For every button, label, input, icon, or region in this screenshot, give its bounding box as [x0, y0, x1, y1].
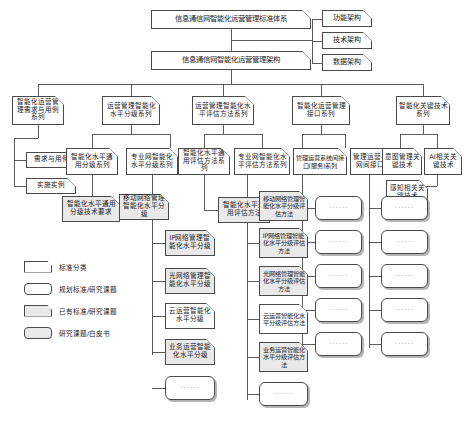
subhead-intent-management-tech: 意图管理关键技术 [382, 148, 422, 175]
legend-swatch-round-white [24, 283, 52, 295]
subhead-implementation-case-label: 实施实例 [37, 182, 65, 190]
leaf-professional-grading-more-label: ······ [180, 384, 199, 392]
category-key-technology: 智能化关键技术系列 [396, 96, 450, 125]
leaf-professional-interface-5: ······ [381, 332, 428, 356]
subhead-general-assessment-series-label: 智能化水平通用评估方法系列 [180, 150, 228, 173]
architecture-branch-technology-label: 技术架构 [333, 36, 361, 44]
leaf-cloud-operation-assessment-label: 云运营智能化水平分级评估方法 [261, 312, 306, 327]
leaf-system-interface-1-label: ······ [329, 204, 348, 212]
leaf-cloud-operation-grading-label: 云运营智能化水平分级 [167, 308, 213, 324]
leaf-system-interface-3-label: ······ [329, 272, 348, 280]
leaf-professional-assessment-more: ······ [259, 382, 308, 406]
architecture-branch-data: 数据架构 [322, 54, 372, 71]
legend-label-existing-standard: 已有标准/研究课题 [59, 306, 117, 316]
leaf-optical-network-assessment: 光网络管理智能化水平分级评估方法 [259, 266, 308, 296]
leaf-professional-interface-2-label: ······ [395, 238, 414, 246]
leaf-system-interface-5: ······ [315, 332, 362, 356]
diagram-title-top-label: 信息通信网智能化运营管理标准体系 [175, 15, 287, 24]
subhead-general-assessment-series: 智能化水平通用评估方法系列 [178, 148, 230, 175]
diagram-canvas: 信息通信网智能化运营管理标准体系 信息通信网智能化运营管理架构 功能架构 技术架… [0, 0, 465, 423]
legend-label-planned-standard: 规划标准/研究课题 [59, 284, 117, 294]
leaf-professional-assessment-more-label: ······ [274, 390, 293, 398]
leaf-system-interface-5-label: ······ [329, 340, 348, 348]
leaf-system-interface-3: ······ [315, 264, 362, 288]
leaf-professional-interface-5-label: ······ [395, 340, 414, 348]
diagram-title-second: 信息通信网智能化运营管理架构 [151, 51, 311, 70]
leaf-mobile-network-assessment-label: 移动网络管理智能化水平分级评估方法 [261, 195, 306, 217]
leaf-cloud-operation-grading: 云运营智能化水平分级 [165, 303, 215, 329]
leaf-optical-network-assessment-label: 光网络管理智能化水平分级评估方法 [261, 270, 306, 292]
architecture-branch-function-label: 功能架构 [333, 14, 361, 22]
leaf-mobile-network-grading: 移动网络管理智能化水平分级 [119, 194, 169, 220]
legend-label-research-whitepaper: 研究课题/白皮书 [59, 328, 110, 338]
architecture-branch-function: 功能架构 [322, 10, 372, 27]
subhead-professional-assessment-series-label: 专业网智能化水平评估方法系列 [236, 154, 288, 170]
category-grading: 运营管理智能化水平分级系列 [102, 96, 160, 125]
category-interface: 智能化运营管理接口系列 [292, 96, 350, 125]
leaf-professional-interface-4-label: ······ [395, 306, 414, 314]
subhead-professional-grading-series: 专业网智能化水平分级系列 [126, 148, 178, 175]
category-assessment-label: 运营管理智能化水平评估方法系列 [194, 103, 252, 119]
category-requirements: 智能化运营管理需求与用例系列 [12, 96, 64, 125]
leaf-professional-grading-more: ······ [165, 376, 215, 400]
subhead-intent-management-tech-label: 意图管理关键技术 [384, 154, 420, 170]
leaf-professional-interface-4: ······ [381, 298, 428, 322]
category-grading-label: 运营管理智能化水平分级系列 [104, 103, 158, 119]
subhead-ai-related-tech: AI相关关键技术 [424, 148, 462, 175]
leaf-general-grading-requirement: 智能化水平通用分级技术要求 [62, 196, 120, 222]
category-key-technology-label: 智能化关键技术系列 [398, 103, 448, 119]
subhead-system-interface-series-label: 管理运营系统间接口(服务)系列 [295, 154, 345, 169]
leaf-optical-network-grading-label: 光网络管理智能化水平分级 [167, 273, 213, 289]
legend-swatch-fold-gray [24, 305, 52, 317]
leaf-ip-network-assessment: IP网络管理智能化水平分级评估方法 [259, 228, 308, 258]
leaf-service-operation-assessment-label: 业务运营智能化水平分级评估方法 [261, 346, 306, 368]
leaf-general-grading-requirement-label: 智能化水平通用分级技术要求 [64, 201, 118, 217]
legend-swatch-fold-white [24, 261, 52, 273]
leaf-system-interface-2-label: ······ [329, 238, 348, 246]
diagram-title-top: 信息通信网智能化运营管理标准体系 [151, 10, 311, 29]
subhead-general-grading-series-label: 智能化水平通用分级系列 [68, 154, 116, 170]
legend-item-planned-standard: 规划标准/研究课题 [24, 280, 117, 297]
leaf-mobile-network-grading-label: 移动网络管理智能化水平分级 [121, 195, 167, 218]
leaf-ip-network-grading-label: IP网络管理智能化水平分级 [167, 235, 213, 251]
leaf-professional-interface-1: ······ [381, 196, 428, 220]
subhead-system-interface-series: 管理运营系统间接口(服务)系列 [293, 148, 347, 175]
legend-item-standard-category: 标准分类 [24, 258, 117, 275]
subhead-professional-assessment-series: 专业网智能化水平评估方法系列 [234, 148, 290, 175]
leaf-system-interface-4: ······ [315, 298, 362, 322]
legend-swatch-round-gray [24, 327, 52, 339]
leaf-mobile-network-assessment: 移动网络管理智能化水平分级评估方法 [259, 191, 308, 221]
architecture-branch-data-label: 数据架构 [333, 58, 361, 66]
leaf-system-interface-2: ······ [315, 230, 362, 254]
leaf-service-operation-assessment: 业务运营智能化水平分级评估方法 [259, 342, 308, 372]
leaf-service-operation-grading-label: 业务运营智能化水平分级 [167, 344, 213, 360]
diagram-title-second-label: 信息通信网智能化运营管理架构 [182, 56, 280, 65]
subhead-professional-grading-series-label: 专业网智能化水平分级系列 [128, 154, 176, 170]
legend-label-standard-category: 标准分类 [59, 262, 87, 272]
category-requirements-label: 智能化运营管理需求与用例系列 [14, 99, 62, 122]
leaf-system-interface-1: ······ [315, 196, 362, 220]
leaf-ip-network-grading: IP网络管理智能化水平分级 [165, 230, 215, 256]
leaf-system-interface-4-label: ······ [329, 306, 348, 314]
leaf-professional-interface-3: ······ [381, 264, 428, 288]
architecture-branch-technology: 技术架构 [322, 32, 372, 49]
leaf-cloud-operation-assessment: 云运营智能化水平分级评估方法 [259, 304, 308, 334]
leaf-professional-interface-3-label: ······ [395, 272, 414, 280]
subhead-ai-related-tech-label: AI相关关键技术 [426, 154, 460, 170]
leaf-service-operation-grading: 业务运营智能化水平分级 [165, 339, 215, 365]
legend-item-existing-standard: 已有标准/研究课题 [24, 302, 117, 319]
leaf-optical-network-grading: 光网络管理智能化水平分级 [165, 268, 215, 294]
subhead-requirements-usecase-label: 需求与用例 [34, 156, 69, 164]
leaf-professional-interface-1-label: ······ [395, 204, 414, 212]
category-assessment: 运营管理智能化水平评估方法系列 [192, 96, 254, 125]
legend-item-research-whitepaper: 研究课题/白皮书 [24, 324, 117, 341]
subhead-general-grading-series: 智能化水平通用分级系列 [66, 148, 118, 175]
leaf-professional-interface-2: ······ [381, 230, 428, 254]
subhead-implementation-case: 实施实例 [26, 178, 76, 194]
leaf-ip-network-assessment-label: IP网络管理智能化水平分级评估方法 [261, 232, 306, 254]
legend: 标准分类 规划标准/研究课题 已有标准/研究课题 研究课题/白皮书 [24, 258, 117, 346]
category-interface-label: 智能化运营管理接口系列 [294, 103, 348, 119]
